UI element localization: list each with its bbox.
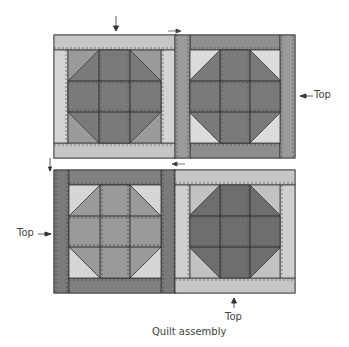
quilt-assembly-diagram: [0, 0, 349, 347]
arrow-right-top-seam: [168, 29, 181, 33]
arrow-right-left-label: [38, 232, 51, 236]
top-label-bottom: Top: [225, 311, 242, 322]
top-left-block: [54, 35, 176, 158]
arrow-left-middle-seam: [172, 162, 185, 166]
arrow-left-top-label: [300, 94, 313, 98]
arrow-down-left-middle: [49, 158, 52, 171]
bottom-right-block: [175, 170, 295, 293]
top-right-block: [175, 35, 295, 158]
caption: Quilt assembly: [152, 326, 226, 337]
top-label-left: Top: [17, 227, 34, 238]
top-label-right: Top: [314, 89, 331, 100]
bottom-left-block: [54, 170, 176, 293]
arrow-up-bottom-label: [232, 298, 237, 308]
arrow-down-top-center: [114, 16, 119, 31]
